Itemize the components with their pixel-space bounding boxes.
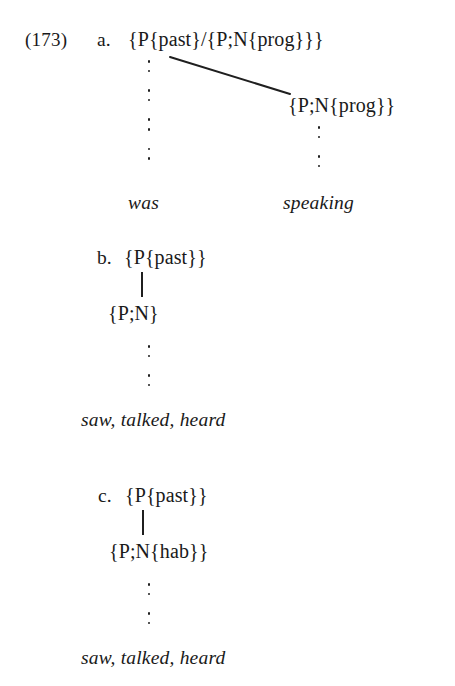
- ellipsis-group: [318, 126, 321, 138]
- ellipsis-group: [148, 148, 151, 160]
- daughter-label-b: {P;N}: [108, 303, 159, 323]
- terminal-phrase-b: saw, talked, heard: [81, 410, 225, 430]
- vertical-stem-b: [141, 272, 143, 297]
- ellipsis-group: [318, 155, 321, 167]
- root-label-a: {P{past}/{P;N{prog}}}: [128, 29, 324, 49]
- example-figure: (173) a. {P{past}/{P;N{prog}}} {P;N{prog…: [0, 0, 455, 686]
- item-letter-b: b.: [97, 248, 112, 268]
- ellipsis-group: [148, 583, 151, 595]
- ellipsis-group: [148, 345, 151, 357]
- terminal-word-speaking: speaking: [283, 193, 354, 213]
- root-label-c: {P{past}}: [125, 485, 208, 505]
- ellipsis-column-c: [140, 583, 158, 624]
- diagonal-branch-line-a: [170, 57, 290, 94]
- example-number: (173): [25, 30, 67, 49]
- daughter-label-c: {P;N{hab}}: [109, 541, 208, 561]
- ellipsis-column-a-left: [140, 60, 158, 160]
- ellipsis-column-a-right: [310, 126, 328, 167]
- ellipsis-group: [148, 89, 151, 101]
- ellipsis-group: [148, 612, 151, 624]
- item-letter-a: a.: [97, 30, 111, 50]
- ellipsis-group: [148, 374, 151, 386]
- terminal-word-was: was: [128, 193, 159, 213]
- branch-node-label-a: {P;N{prog}}: [288, 95, 395, 115]
- item-letter-c: c.: [98, 486, 112, 506]
- ellipsis-group: [148, 60, 151, 72]
- root-label-b: {P{past}}: [124, 247, 207, 267]
- ellipsis-column-b: [140, 345, 158, 386]
- terminal-phrase-c: saw, talked, heard: [81, 648, 225, 668]
- vertical-stem-c: [142, 510, 144, 535]
- ellipsis-group: [148, 118, 151, 130]
